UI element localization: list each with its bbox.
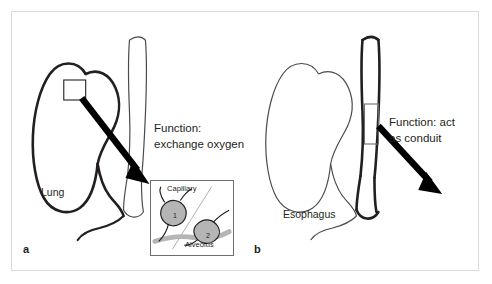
esophagus-illustration (245, 12, 478, 270)
figure-frame: Lung Function: exchange oxygen a (11, 11, 479, 271)
trachea-lower-left (124, 176, 128, 210)
trachea-lower-right (141, 178, 143, 212)
panel-b-esophagus: Esophagus Function: act as conduit b (245, 12, 478, 270)
lung-lower-lobe (78, 216, 124, 240)
function-label-esophagus-line1: Function: act (389, 116, 455, 130)
figure-root: Lung Function: exchange oxygen a (0, 0, 492, 284)
function-label-esophagus-line2: as conduit (389, 132, 441, 146)
panel-letter-a: a (23, 243, 29, 256)
lung-outline-right (319, 72, 352, 164)
inset-number-2: 2 (206, 232, 210, 240)
organ-label-esophagus: Esophagus (283, 208, 336, 220)
esophagus-top (362, 37, 378, 40)
stomach-curve (124, 210, 144, 217)
inset-alveolus: Capillary 1 2 Alveolus (150, 180, 234, 256)
callout-arrow (82, 98, 150, 184)
esophagus-lower-left (357, 176, 361, 210)
trachea-top (129, 37, 145, 40)
inset-label-alveolus: Alveolus (185, 241, 214, 250)
inset-number-1: 1 (173, 212, 177, 220)
lung-base (98, 164, 124, 216)
alveolar-duct-1a (160, 187, 165, 203)
function-label-lung-line1: Function: (154, 122, 201, 136)
panel-a-lung: Lung Function: exchange oxygen a (12, 12, 245, 270)
panel-letter-b: b (254, 243, 261, 256)
lung-outline-left (266, 64, 331, 213)
function-label-lung-line2: exchange oxygen (154, 138, 244, 152)
esophagus-lower-right (374, 178, 376, 212)
inset-label-capillary-a: Capillary (167, 185, 197, 194)
lung-outline-right (86, 72, 119, 164)
callout-source-box (64, 80, 86, 100)
organ-label-lung: Lung (41, 186, 64, 198)
trachea-outline-right (141, 40, 146, 178)
esophagus-outline-left (361, 40, 363, 176)
alveolar-duct-2a (213, 210, 229, 222)
